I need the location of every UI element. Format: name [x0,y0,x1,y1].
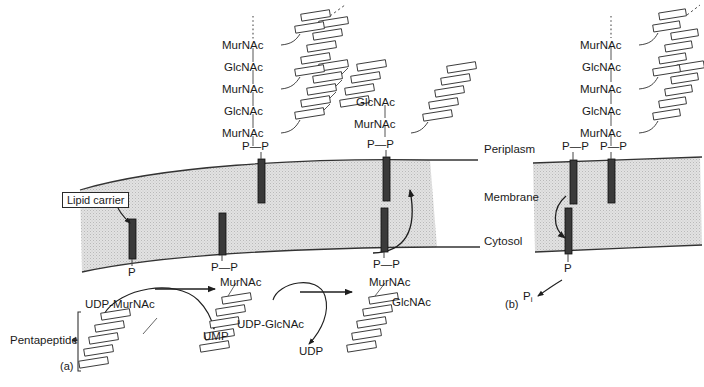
periplasm-label: Periplasm [484,143,535,155]
pyrophosphate-label: P—P [373,258,400,270]
pentapeptide-stack [411,62,476,133]
residue-label: MurNAc [580,127,622,139]
lipid-carrier-callout: Lipid carrier [62,192,129,208]
pentapeptide-stack [347,293,399,352]
residue-label: MurNAc [580,83,622,95]
lipid-carrier-bar [608,159,615,203]
residue-label: GlcNAc [582,105,621,117]
panel-label-b: (b) [505,298,518,310]
pyrophosphate-label: P—P [600,140,627,152]
pentapeptide-stack [639,5,700,45]
residue-label: GlcNAc [224,105,263,117]
lipid-carrier-bar [129,219,136,259]
lipid-carrier-bar [383,157,390,201]
pyrophosphate-label: P—P [211,261,238,273]
product-label: UDP [299,345,323,357]
pyrophosphate-label: P—P [562,140,589,152]
cytosol-label: Cytosol [484,235,522,247]
membrane-band-panel-a [80,160,480,272]
product-label: UMP [203,330,229,342]
pyrophosphate-label: P—P [242,140,269,152]
lipid-carrier-bar [565,208,572,254]
residue-label: GlcNAc [392,296,431,308]
panel-label-a: (a) [60,360,73,372]
lipid-carrier-bar [381,208,388,252]
lipid-carrier-bar [570,160,577,204]
substrate-label: UDP-MurNAc [85,298,155,310]
residue-label: MurNAc [222,39,264,51]
residue-label: MurNAc [222,83,264,95]
substrate-label: UDP-GlcNAc [237,318,304,330]
residue-label: GlcNAc [356,96,395,108]
residue-label: MurNAc [369,276,411,288]
phosphate-release-arrow [538,280,562,296]
residue-label: GlcNAc [224,61,263,73]
figure-canvas: MurNAc GlcNAc MurNAc GlcNAc MurNAc P—P G… [0,0,704,387]
pyrophosphate-label: P—P [367,138,394,150]
lipid-carrier-bar [258,159,265,203]
pentapeptide-label: Pentapeptide [10,334,78,346]
lipid-carrier-bar [219,213,226,255]
residue-label: GlcNAc [582,61,621,73]
residue-label: MurNAc [580,39,622,51]
inorganic-phosphate-label: Pi [523,290,532,304]
pentapeptide-stack [79,309,131,368]
phosphate-label: P [128,266,136,278]
residue-label: MurNAc [220,276,262,288]
membrane-label: Membrane [484,191,539,203]
subscript-i: i [531,295,533,304]
residue-label: MurNAc [222,127,264,139]
phosphate-label: P [564,262,572,274]
residue-label: MurNAc [354,118,396,130]
